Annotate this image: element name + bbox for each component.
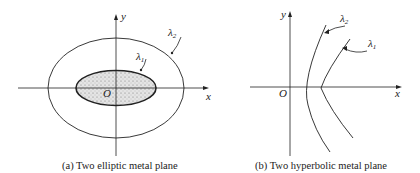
origin-label: O (279, 87, 287, 99)
hyperbolic-diagram: y x O λ2 λ1 (b) Two hyperbolic metal pla… (250, 8, 402, 172)
y-axis-arrow-icon (114, 14, 118, 20)
lambda2-leader-dot (171, 52, 173, 54)
y-axis-label: y (280, 8, 286, 20)
origin-label: O (103, 87, 111, 99)
y-axis-label: y (120, 10, 126, 22)
lambda2-label: λ2 (167, 26, 177, 40)
lambda1-label: λ1 (135, 50, 144, 64)
figure-canvas: y x O λ2 λ1 (a) Two elliptic metal plane… (0, 0, 420, 173)
caption-a: (a) Two elliptic metal plane (62, 160, 178, 172)
lambda1-leader (345, 49, 367, 52)
lambda2-subscript: 2 (173, 32, 177, 40)
lambda2-arrow-icon (324, 29, 329, 34)
lambda2-label: λ2 (339, 12, 349, 26)
lambda1-label: λ1 (367, 37, 376, 51)
lambda1-subscript: 1 (141, 56, 145, 64)
lambda1-leader-dot (140, 69, 142, 71)
caption-b: (b) Two hyperbolic metal plane (255, 160, 387, 172)
hyperbola-lambda2 (306, 25, 330, 152)
y-axis-arrow-icon (288, 11, 292, 17)
hyperbola-lambda1 (321, 39, 353, 138)
lambda2-subscript: 2 (345, 18, 349, 26)
x-axis-label: x (205, 90, 211, 102)
elliptic-diagram: y x O λ2 λ1 (a) Two elliptic metal plane (18, 10, 211, 172)
lambda1-subscript: 1 (373, 43, 377, 51)
x-axis-label: x (394, 87, 400, 99)
